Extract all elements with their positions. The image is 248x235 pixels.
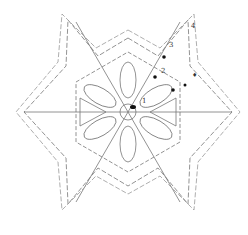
- round-label-2: 2: [161, 67, 165, 75]
- round-label-1: 1: [142, 97, 146, 105]
- start-marker-round-3: [162, 55, 166, 59]
- marker-label: ♦: [192, 71, 197, 78]
- start-marker-round-4: [171, 88, 175, 92]
- start-marker-round-1: [130, 105, 136, 109]
- start-marker-round-2: [153, 75, 157, 79]
- round-label-4: 4: [191, 22, 195, 30]
- crochet-chart: 1 2 3 4 ♦: [0, 0, 248, 235]
- star-motif-diagram: [0, 0, 248, 235]
- round-label-3: 3: [169, 41, 173, 49]
